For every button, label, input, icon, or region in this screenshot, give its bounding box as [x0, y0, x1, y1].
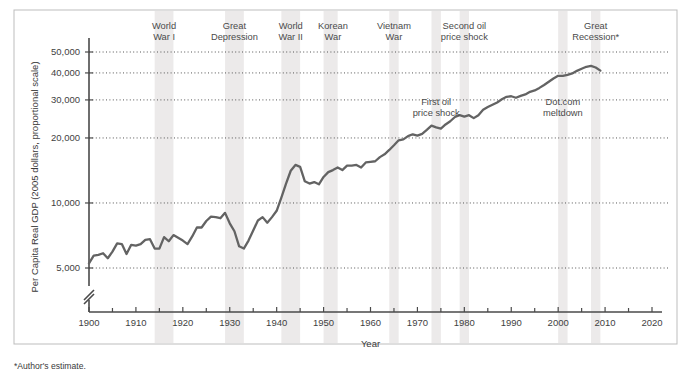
y-axis-title: Per Capita Real GDP (2005 dollars, propo… — [29, 61, 40, 292]
top-label-second-oil-line1: Second oil — [443, 21, 486, 31]
x-axis-title: Year — [361, 338, 380, 349]
top-label-korean-line1: Korean — [318, 21, 348, 31]
y-tick-label-50000: 50,000 — [51, 46, 80, 57]
x-tick-label-1990: 1990 — [501, 317, 522, 328]
top-label-vietnam-line1: Vietnam — [377, 21, 411, 31]
x-tick-label-2010: 2010 — [595, 317, 616, 328]
y-tick-label-5000: 5,000 — [56, 262, 80, 273]
y-tick-label-30000: 30,000 — [51, 94, 80, 105]
y-tick-label-40000: 40,000 — [51, 67, 80, 78]
x-tick-label-1970: 1970 — [407, 317, 428, 328]
top-label-second-oil-line2: price shock — [441, 32, 488, 42]
inner-label-first-oil-line2: price shock — [413, 108, 460, 118]
chart-background — [0, 0, 691, 380]
footnote-text: *Author's estimate. — [14, 361, 86, 371]
event-band-dot-com-meltdown — [558, 11, 567, 343]
chart-figure: 5,00010,00020,00030,00040,00050,000 1900… — [0, 0, 691, 380]
event-band-second-oil-price-shock — [460, 11, 469, 343]
top-label-great-line1: Great — [223, 21, 247, 31]
top-label-great-line1: Great — [584, 21, 608, 31]
top-label-world-line2: War II — [279, 32, 303, 42]
x-tick-label-1900: 1900 — [78, 317, 99, 328]
y-tick-label-20000: 20,000 — [51, 132, 80, 143]
inner-label-dot-com-line1: Dot.com — [546, 97, 581, 107]
top-label-great-line2: Depression — [211, 32, 258, 42]
inner-label-dot-com-line2: meltdown — [543, 108, 583, 118]
top-label-korean-line2: War — [325, 32, 342, 42]
top-label-great-line2: Recession* — [572, 32, 619, 42]
x-tick-label-1930: 1930 — [219, 317, 240, 328]
event-band-great-depression — [225, 11, 244, 343]
event-band-great-recession — [591, 11, 600, 343]
footnote: *Author's estimate. — [14, 361, 86, 371]
x-tick-label-1910: 1910 — [125, 317, 146, 328]
x-tick-label-1920: 1920 — [172, 317, 193, 328]
gdp-line-chart: 5,00010,00020,00030,00040,00050,000 1900… — [0, 0, 691, 380]
x-tick-label-1960: 1960 — [360, 317, 381, 328]
x-tick-label-2000: 2000 — [548, 317, 569, 328]
y-tick-label-10000: 10,000 — [51, 197, 80, 208]
event-band-vietnam-war — [389, 11, 398, 343]
top-label-world-line2: War I — [153, 32, 175, 42]
top-label-vietnam-line2: War — [386, 32, 403, 42]
event-band-world-war-i — [155, 11, 174, 343]
x-tick-label-1950: 1950 — [313, 317, 334, 328]
inner-label-first-oil-line1: First oil — [421, 97, 451, 107]
event-band-korean-war — [324, 11, 338, 343]
x-tick-label-1980: 1980 — [454, 317, 475, 328]
x-tick-label-2020: 2020 — [641, 317, 662, 328]
x-tick-label-1940: 1940 — [266, 317, 287, 328]
top-label-world-line1: World — [279, 21, 303, 31]
top-label-world-line1: World — [152, 21, 176, 31]
event-band-first-oil-price-shock — [431, 11, 440, 343]
event-band-world-war-ii — [281, 11, 300, 343]
